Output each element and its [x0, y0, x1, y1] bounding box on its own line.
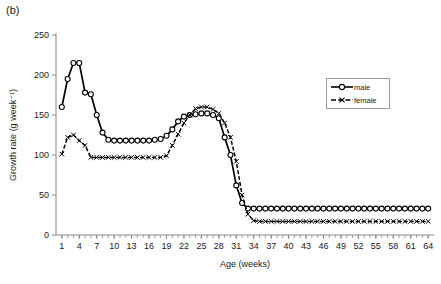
legend-entry-male: male: [331, 81, 370, 93]
data-point-marker: [426, 219, 431, 224]
x-tick-label: 34: [249, 241, 259, 251]
x-tick-label: 25: [196, 241, 206, 251]
data-point-marker: [408, 206, 413, 211]
x-tick-label: 31: [231, 241, 241, 251]
legend-marker-cross-x-icon: [331, 95, 353, 105]
x-tick-label: 64: [423, 241, 433, 251]
data-point-marker: [170, 127, 175, 132]
data-point-marker: [286, 206, 291, 211]
data-point-marker: [350, 206, 355, 211]
data-point-marker: [217, 111, 222, 116]
data-point-marker: [228, 153, 233, 158]
data-point-marker: [59, 105, 64, 110]
data-point-marker: [304, 206, 309, 211]
x-axis-title: Age (weeks): [220, 259, 270, 269]
figure-panel-b: (b) 050100150200250147101316192225283134…: [0, 0, 441, 284]
y-axis-ticks: 050100150200250: [34, 30, 56, 240]
data-point-marker: [327, 206, 332, 211]
x-tick-label: 40: [284, 241, 294, 251]
x-tick-label: 10: [109, 241, 119, 251]
x-tick-label: 22: [179, 241, 189, 251]
data-point-marker: [402, 206, 407, 211]
x-tick-label: 61: [406, 241, 416, 251]
y-tick-label: 250: [34, 30, 49, 40]
legend-label-female: female: [354, 96, 377, 105]
data-point-marker: [77, 61, 82, 66]
data-point-marker: [426, 206, 431, 211]
growth-rate-line-chart: 0501001502002501471013161922252831343740…: [0, 0, 441, 284]
legend-label-male: male: [354, 83, 370, 92]
x-tick-label: 46: [318, 241, 328, 251]
x-axis-ticks: 1471013161922252831343740434649525558616…: [59, 235, 433, 251]
data-point-marker: [147, 138, 152, 143]
data-point-marker: [129, 138, 134, 143]
data-point-marker: [309, 206, 314, 211]
data-point-marker: [222, 135, 227, 140]
data-point-marker: [199, 111, 204, 116]
chart-legend: male female: [326, 78, 390, 109]
x-tick-label: 1: [59, 241, 64, 251]
data-point-marker: [397, 206, 402, 211]
chart-plot-area: 0501001502002501471013161922252831343740…: [0, 0, 441, 284]
data-point-marker: [414, 206, 419, 211]
data-point-marker: [117, 138, 122, 143]
data-point-marker: [152, 137, 157, 142]
data-point-marker: [211, 113, 216, 118]
data-point-marker: [65, 77, 70, 82]
data-point-marker: [292, 206, 297, 211]
data-point-marker: [94, 113, 99, 118]
data-point-marker: [379, 206, 384, 211]
legend-entry-female: female: [331, 94, 377, 106]
data-point-marker: [88, 92, 93, 97]
x-tick-label: 13: [127, 241, 137, 251]
y-tick-label: 0: [44, 230, 49, 240]
data-point-marker: [356, 206, 361, 211]
data-point-marker: [274, 206, 279, 211]
x-tick-label: 37: [266, 241, 276, 251]
data-point-marker: [368, 206, 373, 211]
data-point-marker: [280, 206, 285, 211]
legend-marker-open-circle-icon: [331, 82, 353, 92]
data-point-marker: [106, 137, 111, 142]
data-point-marker: [170, 143, 175, 148]
y-tick-label: 200: [34, 70, 49, 80]
data-point-marker: [385, 206, 390, 211]
data-point-marker: [181, 114, 186, 119]
y-axis-title: Growth rate (g week⁻¹): [8, 89, 18, 181]
data-point-marker: [234, 183, 239, 188]
data-point-marker: [298, 206, 303, 211]
data-point-marker: [269, 206, 274, 211]
data-point-marker: [112, 138, 117, 143]
data-point-marker: [158, 137, 163, 142]
data-point-marker: [362, 206, 367, 211]
data-point-marker: [263, 206, 268, 211]
data-point-marker: [251, 206, 256, 211]
data-point-marker: [71, 133, 76, 138]
data-point-marker: [141, 138, 146, 143]
data-point-marker: [193, 112, 198, 117]
data-point-marker: [420, 206, 425, 211]
x-tick-label: 19: [161, 241, 171, 251]
data-point-marker: [391, 206, 396, 211]
series-line-female: [62, 107, 428, 221]
data-point-marker: [164, 133, 169, 138]
x-tick-label: 7: [94, 241, 99, 251]
data-point-marker: [321, 206, 326, 211]
data-point-marker: [338, 206, 343, 211]
data-point-marker: [315, 206, 320, 211]
x-tick-label: 28: [214, 241, 224, 251]
x-tick-label: 16: [144, 241, 154, 251]
data-point-marker: [205, 111, 210, 116]
data-point-marker: [83, 90, 88, 95]
data-point-marker: [176, 119, 181, 124]
data-point-marker: [123, 138, 128, 143]
data-point-marker: [83, 143, 88, 148]
data-point-marker: [77, 138, 82, 143]
x-tick-label: 4: [77, 241, 82, 251]
data-point-marker: [373, 206, 378, 211]
x-tick-label: 58: [388, 241, 398, 251]
y-tick-label: 100: [34, 150, 49, 160]
data-point-marker: [344, 206, 349, 211]
x-tick-label: 55: [371, 241, 381, 251]
data-point-marker: [100, 130, 105, 135]
